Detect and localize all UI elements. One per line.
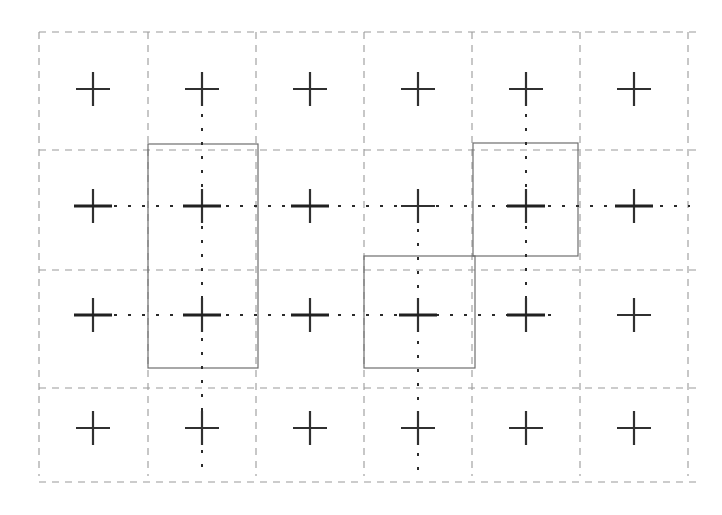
figure-background	[0, 0, 722, 515]
figure-canvas	[0, 0, 722, 515]
grid-cross-figure	[0, 0, 722, 515]
